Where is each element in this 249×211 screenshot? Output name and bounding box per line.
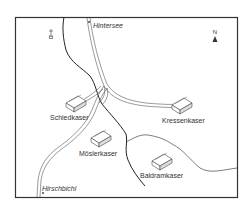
place-label-hintersee: Hintersee: [93, 22, 123, 29]
hintersee-dot: [88, 21, 90, 23]
north-arrow-icon: [213, 36, 218, 42]
road-schiedkaser-spur: [84, 86, 103, 101]
hut-icon: [66, 95, 86, 112]
map: N: [0, 0, 249, 211]
hut-icon: [152, 153, 172, 170]
place-label-baldramkaser: Baldramkaser: [140, 172, 183, 179]
hirschbichl-dot: [42, 192, 44, 194]
hut-icon: [172, 97, 192, 114]
place-label-moslerkaser: Möslerkaser: [79, 150, 117, 157]
map-frame: [16, 18, 238, 198]
hut-icon: [91, 130, 111, 147]
place-label-kressenkaser: Kressenkaser: [162, 117, 205, 124]
chapel-cross-icon: [49, 29, 53, 39]
place-label-schiedkaser: Schiedkaser: [50, 114, 89, 121]
road-hintersee-kressenkaser: [87, 18, 188, 107]
stream: [126, 135, 237, 171]
north-label: N: [213, 29, 217, 35]
place-label-hirschbichl: Hirschbichl: [42, 185, 76, 192]
